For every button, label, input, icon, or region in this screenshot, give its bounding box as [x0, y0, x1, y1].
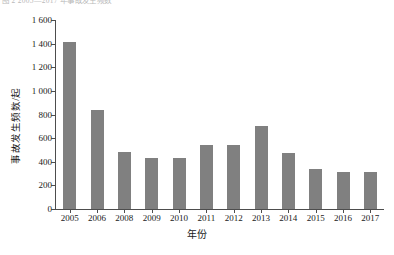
- bar-column: [364, 20, 377, 209]
- bar: [145, 158, 158, 209]
- bar: [200, 145, 213, 209]
- y-axis-tick-label: 800: [18, 110, 52, 119]
- x-axis-title: 年份: [0, 229, 394, 241]
- bar-column: [173, 20, 186, 209]
- y-axis-tick-mark: [51, 115, 55, 116]
- x-axis-tick-mark: [261, 210, 262, 213]
- y-axis-tick-label: 600: [18, 134, 52, 143]
- x-axis-line: [55, 209, 384, 210]
- x-axis-tick-mark: [152, 210, 153, 213]
- y-axis-tick-mark: [51, 67, 55, 68]
- plot-area: [56, 20, 384, 209]
- y-axis-tick-mark: [51, 162, 55, 163]
- bar: [227, 145, 240, 209]
- y-axis-tick-mark: [51, 185, 55, 186]
- bar-column: [282, 20, 295, 209]
- bar: [255, 126, 268, 209]
- bar: [173, 158, 186, 209]
- bar: [309, 169, 322, 209]
- bar-chart: 事故发生频数/起 02004006008001 0001 2001 4001 6…: [0, 0, 394, 255]
- bar: [364, 172, 377, 209]
- y-axis-tick-labels: 02004006008001 0001 2001 4001 600: [18, 14, 52, 214]
- bar-column: [63, 20, 76, 209]
- bar: [337, 172, 350, 209]
- bar: [282, 153, 295, 209]
- y-axis-tick-mark: [51, 91, 55, 92]
- x-axis-tick-mark: [70, 210, 71, 213]
- bar-column: [309, 20, 322, 209]
- y-axis-tick-label: 1 600: [18, 16, 52, 25]
- y-axis-tick-label: 1 000: [18, 86, 52, 95]
- y-axis-tick-label: 1 200: [18, 63, 52, 72]
- y-axis-tick-label: 1 400: [18, 39, 52, 48]
- x-axis-tick-mark: [179, 210, 180, 213]
- bar: [91, 110, 104, 209]
- bar-column: [200, 20, 213, 209]
- x-axis-tick-mark: [343, 210, 344, 213]
- y-axis-tick-mark: [51, 20, 55, 21]
- y-axis-tick-mark: [51, 138, 55, 139]
- y-axis-tick-mark: [51, 44, 55, 45]
- y-axis-tick-label: 400: [18, 157, 52, 166]
- y-axis-tick-mark: [51, 209, 55, 210]
- bar-column: [91, 20, 104, 209]
- x-axis-tick-labels: 2005200620082009201020112012201320142015…: [56, 213, 384, 227]
- x-axis-tick-mark: [316, 210, 317, 213]
- bar-column: [337, 20, 350, 209]
- x-axis-tick-mark: [97, 210, 98, 213]
- x-axis-tick-mark: [370, 210, 371, 213]
- x-axis-tick-label: 2017: [354, 213, 386, 224]
- x-axis-tick-mark: [234, 210, 235, 213]
- x-axis-tick-mark: [124, 210, 125, 213]
- bar-column: [145, 20, 158, 209]
- y-axis-tick-label: 0: [18, 205, 52, 214]
- bar-column: [255, 20, 268, 209]
- y-axis-tick-label: 200: [18, 181, 52, 190]
- bar: [118, 152, 131, 209]
- x-axis-tick-mark: [288, 210, 289, 213]
- x-axis-tick-mark: [206, 210, 207, 213]
- bar: [63, 42, 76, 209]
- bar-column: [227, 20, 240, 209]
- bar-column: [118, 20, 131, 209]
